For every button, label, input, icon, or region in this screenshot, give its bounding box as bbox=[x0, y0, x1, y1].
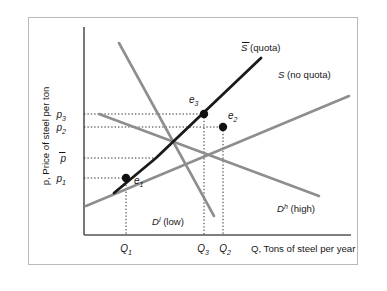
curve-supply-quota bbox=[114, 58, 261, 193]
y-tick-label-p1: p1 bbox=[56, 173, 67, 186]
svg-text:S (quota): S (quota) bbox=[241, 42, 280, 53]
figure-root: e1 e3 e2 S (quota) S (no quota) bbox=[0, 0, 387, 291]
supply-demand-chart: e1 e3 e2 S (quota) S (no quota) bbox=[29, 18, 359, 266]
point-e1 bbox=[122, 174, 130, 182]
curve-demand-high bbox=[99, 114, 319, 196]
point-label-e2: e2 bbox=[228, 110, 238, 123]
x-tick-label-q1: Q1 bbox=[120, 243, 132, 256]
y-tick-label-p2: p2 bbox=[56, 122, 67, 135]
curve-label-demand-high: Dh (high) bbox=[277, 203, 315, 214]
x-axis-title: Q, Tons of steel per year bbox=[251, 243, 356, 254]
svg-text:p: p bbox=[59, 153, 66, 164]
point-label-e1: e1 bbox=[134, 175, 144, 188]
point-label-e3: e3 bbox=[189, 94, 199, 107]
figure-frame: e1 e3 e2 S (quota) S (no quota) bbox=[28, 17, 358, 265]
curve-supply-no-quota bbox=[86, 96, 349, 206]
curve-demand-low bbox=[119, 43, 214, 216]
curve-label-demand-low: Dl (low) bbox=[152, 216, 184, 227]
x-tick-label-q2: Q2 bbox=[219, 243, 231, 256]
curve-label-supply-no-quota: S (no quota) bbox=[278, 69, 331, 80]
x-tick-label-q3: Q3 bbox=[197, 243, 209, 256]
y-axis-title: p, Price of steel per ton bbox=[40, 87, 51, 186]
curve-label-supply-quota: S (quota) bbox=[241, 42, 280, 53]
y-tick-label-p3: p3 bbox=[56, 109, 67, 122]
y-tick-label-pbar: p bbox=[59, 153, 66, 165]
point-e2 bbox=[219, 123, 227, 131]
point-e3 bbox=[200, 110, 208, 118]
